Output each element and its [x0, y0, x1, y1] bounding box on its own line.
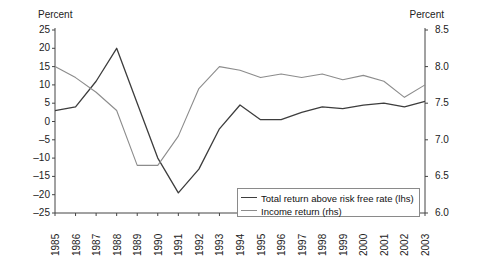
legend-label-total-return: Total return above risk free rate (lhs): [261, 193, 414, 204]
legend-label-income-return: Income return (rhs): [261, 206, 342, 217]
series-line-income-return: [55, 67, 425, 166]
legend-swatch-income-return: [241, 210, 257, 212]
chart-container: Percent Percent 2520151050–5–10–15–20–25…: [0, 0, 480, 264]
plot-area: [0, 0, 480, 264]
legend: Total return above risk free rate (lhs) …: [237, 188, 420, 217]
legend-swatch-total-return: [241, 197, 257, 199]
legend-item-total-return: Total return above risk free rate (lhs): [241, 192, 416, 204]
legend-item-income-return: Income return (rhs): [241, 205, 416, 217]
